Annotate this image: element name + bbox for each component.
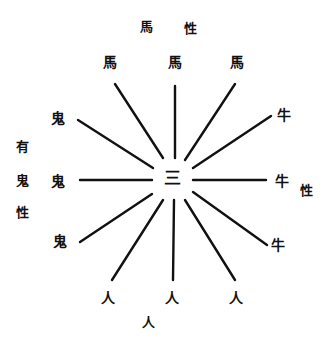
top-node-1: 馬: [103, 55, 117, 69]
top-label-char-2: 性: [184, 22, 197, 35]
left-label-char-1: 有: [16, 140, 29, 153]
right-label-char: 性: [300, 184, 313, 197]
left-node-3: 鬼: [53, 234, 67, 248]
top-node-2: 馬: [168, 55, 182, 69]
radial-line-6: [193, 192, 267, 245]
right-node-3: 牛: [271, 238, 285, 252]
radial-line-7: [185, 200, 235, 280]
right-node-2: 牛: [275, 174, 289, 188]
radial-lines: [0, 0, 323, 344]
radial-line-3: [185, 84, 235, 160]
bottom-node-3: 人: [229, 291, 243, 305]
right-node-1: 牛: [277, 108, 291, 122]
bottom-node-2: 人: [165, 291, 179, 305]
left-label-char-2: 鬼: [16, 174, 29, 187]
left-node-2: 鬼: [51, 174, 65, 188]
radial-diagram: 三 馬 性 馬 馬 馬 性 牛 牛 牛 人 人 人 人 有 鬼 性 鬼 鬼 鬼: [0, 0, 323, 344]
top-label-char-1: 馬: [140, 20, 153, 33]
left-label-char-3: 性: [16, 206, 29, 219]
bottom-label-char: 人: [142, 316, 155, 329]
top-node-3: 馬: [230, 55, 244, 69]
radial-line-9: [112, 200, 163, 280]
radial-line-4: [193, 116, 271, 168]
center-char: 三: [164, 170, 181, 187]
radial-line-8: [173, 200, 174, 280]
left-node-1: 鬼: [51, 111, 65, 125]
bottom-node-1: 人: [101, 291, 115, 305]
